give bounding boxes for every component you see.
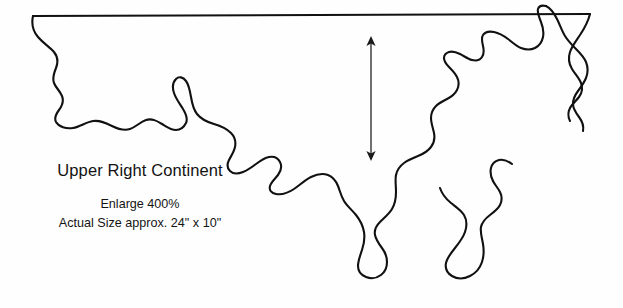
coastline-lower-right-peninsula	[440, 181, 502, 278]
coastline-path	[32, 6, 546, 278]
vertical-double-arrow	[366, 36, 375, 161]
pattern-sheet: Upper Right Continent Enlarge 400% Actua…	[0, 0, 623, 308]
top-ruled-edge	[33, 14, 590, 16]
coastline-inner-branch	[546, 6, 588, 131]
continent-outline-artwork	[0, 0, 623, 308]
coastline-notch	[491, 160, 512, 181]
